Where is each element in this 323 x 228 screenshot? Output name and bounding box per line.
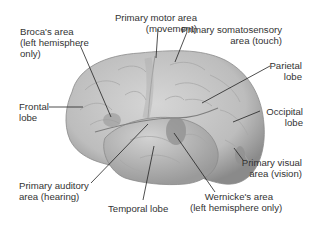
label-line: only) [20, 48, 89, 59]
label-temporal-lobe: Temporal lobe [108, 203, 168, 214]
wernickes-area-region [166, 117, 186, 145]
label-line: Primary visual [235, 157, 302, 168]
label-primary-somatosensory-area: Primary somatosensory area (touch) [180, 24, 282, 46]
label-occipital-lobe: Occipital lobe [256, 106, 303, 128]
brain-diagram: Broca's area (left hemisphere only) Prim… [0, 0, 323, 228]
label-line: Primary auditory [19, 180, 89, 191]
label-line: Wernicke's area [190, 191, 273, 202]
brocas-area-region [103, 113, 121, 127]
label-parietal-lobe: Parietal lobe [260, 60, 302, 82]
label-line: Parietal [260, 60, 302, 71]
motor-strip-region [146, 58, 150, 118]
label-line: area (hearing) [19, 191, 89, 202]
label-line: lobe [19, 112, 49, 123]
label-primary-visual-area: Primary visual area (vision) [235, 157, 302, 179]
label-frontal-lobe: Frontal lobe [19, 101, 49, 123]
label-line: lobe [260, 71, 302, 82]
label-line: Frontal [19, 101, 49, 112]
temporal-lobe-shape [104, 117, 218, 184]
label-line: lobe [256, 117, 303, 128]
label-line: Primary somatosensory [180, 24, 282, 35]
label-line: Broca's area [20, 26, 89, 37]
label-brocas-area: Broca's area (left hemisphere only) [20, 26, 89, 59]
label-line: Temporal lobe [108, 203, 168, 214]
label-line: area (vision) [235, 168, 302, 179]
label-line: Occipital [256, 106, 303, 117]
label-primary-auditory-area: Primary auditory area (hearing) [19, 180, 89, 202]
label-line: (left hemisphere [20, 37, 89, 48]
label-wernickes-area: Wernicke's area (left hemisphere only) [190, 191, 273, 213]
label-line: area (touch) [180, 35, 282, 46]
label-line: Primary motor area [90, 12, 197, 23]
label-line: (left hemisphere only) [190, 202, 273, 213]
